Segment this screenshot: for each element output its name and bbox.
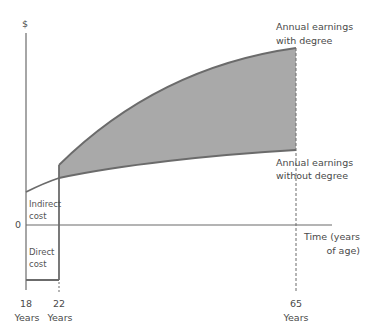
tick-18-value: 18 (14, 296, 38, 311)
x-axis-label: Time (years of age) (300, 230, 360, 258)
with-degree-label-line1: Annual earnings (276, 19, 353, 34)
direct-cost-label-line1: Direct (29, 246, 54, 258)
tick-22-value: 22 (47, 296, 71, 311)
tick-18-unit: Years (12, 310, 42, 325)
tick-22-unit: Years (45, 310, 75, 325)
direct-cost-label-line2: cost (29, 258, 47, 270)
without-degree-label-line2: without degree (276, 168, 348, 183)
zero-label: 0 (15, 217, 21, 232)
indirect-cost-label-line2: cost (29, 210, 47, 222)
with-degree-label-line2: with degree (276, 33, 332, 48)
tick-65-unit: Years (281, 310, 311, 325)
indirect-cost-label-line1: Indirect (29, 198, 61, 210)
earnings-premium-area (59, 48, 296, 178)
y-axis-label: $ (22, 16, 28, 31)
tick-65-value: 65 (284, 296, 308, 311)
